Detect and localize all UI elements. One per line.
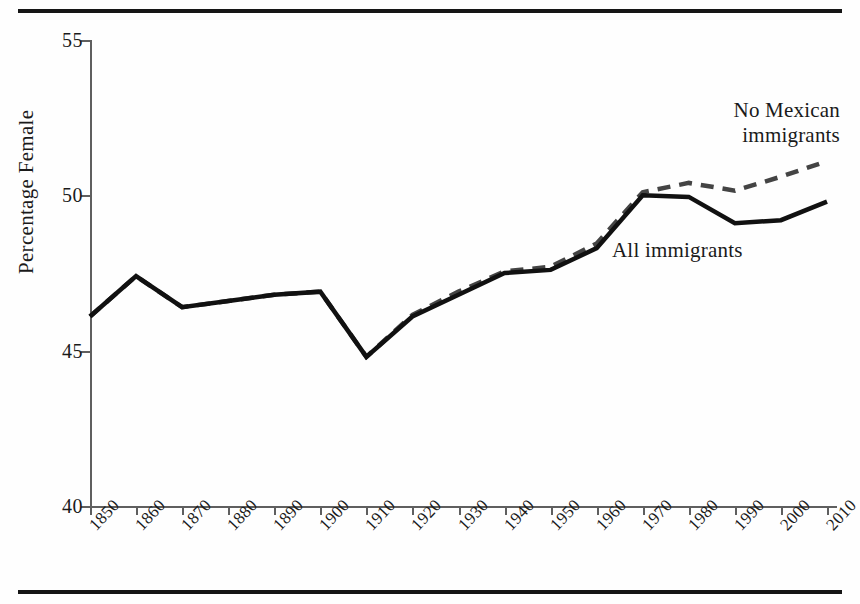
bottom-divider-rule: [18, 590, 842, 594]
top-divider-rule: [18, 9, 842, 13]
series-annotation-no-mexican-immigrants: No Mexican immigrants: [592, 98, 840, 148]
y-tick-label: 55: [62, 30, 83, 50]
y-tick-label: 50: [62, 185, 83, 205]
annotation-line-1: No Mexican: [592, 98, 840, 123]
figure-container: Percentage Female 40455055 1850186018701…: [0, 0, 860, 604]
y-tick-label: 45: [62, 341, 83, 361]
annotation-line-2: immigrants: [592, 123, 840, 148]
series-line-all-immigrants: [90, 195, 827, 357]
series-annotation-all-immigrants: All immigrants: [612, 238, 743, 263]
y-tick-label: 40: [62, 496, 83, 516]
y-axis-title: Percentage Female: [14, 110, 39, 274]
